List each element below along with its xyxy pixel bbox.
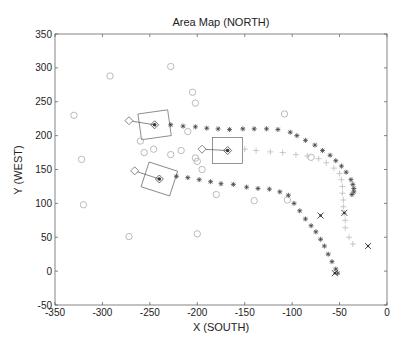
y-tick-label: 100 — [35, 198, 52, 209]
x-tick-label: -150 — [235, 307, 255, 318]
plot-area — [55, 34, 387, 305]
chart-title: Area Map (NORTH) — [173, 16, 270, 28]
y-tick-label: 250 — [35, 96, 52, 107]
y-tick-label: 150 — [35, 164, 52, 175]
y-tick-label: -50 — [38, 300, 53, 311]
x-tick-label: -100 — [282, 307, 302, 318]
y-tick-label: 350 — [35, 29, 52, 40]
x-tick-label: -300 — [92, 307, 112, 318]
x-tick-label: 0 — [384, 307, 390, 318]
x-axis-label: X (SOUTH) — [193, 321, 249, 333]
x-tick-label: -250 — [140, 307, 160, 318]
area-map-chart: Area Map (NORTH) -350-300-250-200-150-10… — [0, 0, 407, 350]
x-tick-label: -200 — [187, 307, 207, 318]
y-tick-label: 300 — [35, 62, 52, 73]
x-tick-label: -50 — [332, 307, 347, 318]
y-tick-label: 0 — [46, 266, 52, 277]
y-tick-label: 50 — [41, 232, 53, 243]
y-axis-label: Y (WEST) — [12, 145, 24, 194]
y-tick-label: 200 — [35, 130, 52, 141]
